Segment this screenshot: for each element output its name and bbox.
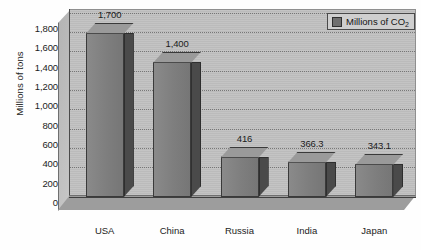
y-axis-tick-label: 1,800	[35, 23, 58, 34]
bar-usa[interactable]	[86, 33, 124, 197]
bar-value-label: 1,400	[165, 38, 188, 49]
bar-japan[interactable]	[355, 164, 393, 197]
y-axis-tick-label: 1,400	[35, 61, 58, 72]
x-axis-label-china: China	[160, 225, 185, 236]
y-axis-tick-label: 1,200	[35, 81, 58, 92]
bar-value-label: 366.3	[300, 138, 323, 149]
y-axis-tick-label: 1,600	[35, 42, 58, 53]
bar-russia[interactable]	[221, 157, 259, 197]
bar-value-label: 1,700	[98, 9, 121, 20]
bar-value-label: 416	[237, 133, 253, 144]
y-axis-tick-labels: 02004006008001,0001,2001,4001,6001,800	[14, 14, 58, 211]
chart-figure: Millions of tons 02004006008001,0001,200…	[0, 0, 421, 250]
legend: Millions of CO2	[327, 13, 415, 30]
legend-label-text: Millions of CO	[346, 16, 405, 27]
x-axis-label-india: India	[297, 225, 318, 236]
bar-side-face	[191, 62, 201, 197]
bar-side-face	[124, 33, 134, 197]
bar-front-face	[355, 164, 393, 197]
y-axis-tick-label: 600	[42, 139, 58, 150]
legend-swatch-icon	[332, 17, 342, 27]
bar-front-face	[221, 157, 259, 197]
x-axis-label-usa: USA	[95, 225, 115, 236]
y-axis-tick-label: 200	[42, 177, 58, 188]
bar-china[interactable]	[153, 62, 191, 197]
y-axis-tick-label: 1,000	[35, 100, 58, 111]
bar-front-face	[153, 62, 191, 197]
legend-label: Millions of CO2	[346, 16, 409, 27]
bar-front-face	[86, 33, 124, 197]
bar-india[interactable]	[288, 162, 326, 197]
x-axis-line	[69, 197, 416, 198]
bar-value-label: 343.1	[368, 140, 391, 151]
x-axis-label-russia: Russia	[225, 225, 254, 236]
legend-label-subscript: 2	[405, 21, 409, 28]
plot-area: 1,7001,400416366.3343.1 USAChinaRussiaIn…	[58, 9, 416, 211]
y-axis-line	[69, 9, 70, 197]
cutoff-caption	[8, 244, 413, 250]
y-axis-tick-label: 400	[42, 158, 58, 169]
x-axis-label-japan: Japan	[361, 225, 387, 236]
bar-front-face	[288, 162, 326, 197]
y-axis-tick-label: 800	[42, 119, 58, 130]
